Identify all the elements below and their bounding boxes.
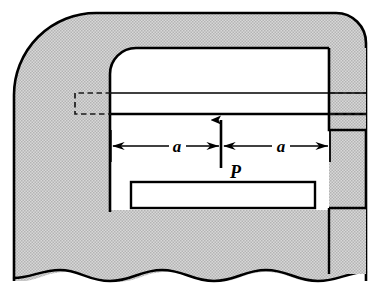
right-upper-leg-fill (329, 48, 366, 130)
right-upper-leg (329, 48, 366, 130)
force-label-P: P (229, 162, 242, 182)
bottom-right-block-fill (329, 208, 366, 274)
dimension-label-a-left: a (173, 137, 182, 156)
bottom-right-block (329, 208, 366, 274)
lower-jaw-anvil (131, 182, 315, 208)
c-clamp-figure: a a P (0, 0, 379, 288)
dimension-label-a-right: a (277, 137, 286, 156)
lower-jaw-fill (131, 182, 315, 208)
engineering-diagram: a a P (0, 0, 379, 288)
